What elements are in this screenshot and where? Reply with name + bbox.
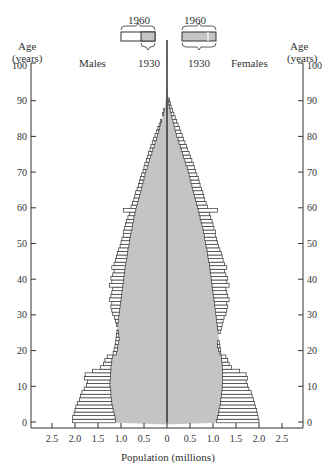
male-1960-bar (133, 201, 138, 205)
female-1960-bar (202, 223, 213, 227)
female-1960-bar (177, 134, 183, 138)
male-1960-bar (113, 287, 123, 291)
x-tick-label: 2.0 (69, 433, 82, 444)
x-tick-label: 1.0 (115, 433, 128, 444)
x-tick-label: 1.0 (207, 433, 220, 444)
male-1960-bar (146, 159, 149, 163)
male-1960-bar (115, 316, 119, 320)
female-1960-bar (200, 216, 211, 220)
male-1960-bar (122, 237, 130, 241)
female-1960-bar (203, 230, 215, 234)
male-1960-bar (143, 169, 146, 173)
female-1960-bar (221, 355, 226, 359)
female-1960-bar (217, 323, 222, 327)
male-1960-bar (155, 134, 157, 138)
female-1960-bar (194, 191, 203, 195)
female-1960-bar (210, 266, 227, 270)
male-1960-bar (144, 166, 147, 170)
y-tick-label-left: 90 (17, 95, 27, 106)
female-1960-bar (171, 112, 174, 116)
y-tick-label-right: 70 (307, 167, 317, 178)
female-1960-bar (221, 394, 252, 398)
male-1960-bar (163, 109, 164, 113)
female-1960-bar (223, 373, 246, 377)
male-1960-bar (84, 387, 110, 391)
y-tick-label-left: 70 (17, 167, 27, 178)
male-1960-bar (107, 355, 113, 359)
female-1960-bar (211, 276, 228, 280)
male-1960-bar (111, 294, 122, 298)
female-1960-bar (208, 259, 223, 263)
y-tick-label-left: 20 (17, 345, 27, 356)
female-1960-bar (168, 98, 169, 102)
male-1960-bar (136, 191, 141, 195)
female-1960-bar (213, 294, 227, 298)
male-1960-bar (85, 373, 110, 377)
male-1960-bar (112, 301, 121, 305)
y-tick-label-left: 100 (12, 60, 27, 71)
female-1960-bar (184, 155, 191, 159)
male-1960-bar (87, 384, 110, 388)
female-1960-bar (207, 251, 221, 255)
female-1960-bar (214, 301, 226, 305)
male-1960-bar (110, 284, 123, 288)
male-1960-bar (140, 176, 144, 180)
female-1960-bar (214, 298, 229, 302)
male-1960-bar (162, 112, 163, 116)
female-1960-bar (169, 105, 171, 109)
female-1960-bar (193, 187, 202, 191)
female-1960-bar (179, 141, 185, 145)
female-1960-bar (206, 241, 218, 245)
males-legend-1930-brace (141, 43, 155, 50)
male-1960-bar (112, 266, 125, 270)
male-1960-bar (113, 351, 116, 355)
male-1960-bar (158, 126, 160, 130)
female-1960-bar (222, 387, 249, 391)
male-1960-bar (125, 226, 132, 230)
female-1960-bar (216, 316, 224, 320)
female-1960-bar (218, 344, 220, 348)
male-1960-bar (84, 376, 110, 380)
female-1960-bar (217, 419, 259, 423)
male-1960-bar (77, 401, 112, 405)
female-1960-bar (212, 284, 229, 288)
female-1960-bar (208, 255, 222, 259)
female-1960-bar (192, 184, 200, 188)
male-1960-bar (110, 298, 122, 302)
male-1960-bar (156, 130, 158, 134)
male-1960-bar (126, 223, 133, 227)
male-1960-bar (116, 334, 118, 338)
female-1960-bar (196, 198, 205, 202)
male-1960-bar (74, 412, 114, 416)
females-legend-1960-brace (182, 23, 216, 30)
male-1960-bar (104, 362, 112, 366)
x-tick-label: 1.5 (230, 433, 243, 444)
female-1960-bar (190, 176, 198, 180)
female-1960-bar (220, 405, 255, 409)
y-tick-label-left: 80 (17, 131, 27, 142)
male-1960-bar (128, 216, 134, 220)
male-1960-bar (120, 244, 129, 248)
female-1960-bar (199, 212, 209, 216)
male-1960-bar (159, 123, 160, 127)
female-1960-bar (218, 341, 220, 345)
males-legend-1930-segment (141, 32, 155, 41)
y-tick-label-left: 40 (17, 274, 27, 285)
male-1960-bar (113, 273, 125, 277)
female-1960-bar (183, 151, 189, 155)
male-1960-bar (114, 262, 126, 266)
male-1960-bar (73, 419, 116, 423)
female-1960-bar (204, 234, 215, 238)
female-1960-bar (198, 209, 217, 213)
y-tick-label-left: 50 (17, 238, 27, 249)
female-1960-bar (175, 126, 180, 130)
male-1960-bar (112, 280, 124, 284)
y-tick-label-left: 0 (22, 417, 27, 428)
male-1960-bar (150, 148, 153, 152)
female-1960-bar (215, 305, 228, 309)
female-1960-bar (222, 391, 251, 395)
male-1960-bar (115, 344, 118, 348)
female-1960-bar (220, 401, 254, 405)
female-1960-bar (174, 123, 178, 127)
male-1960-bar (115, 341, 118, 345)
